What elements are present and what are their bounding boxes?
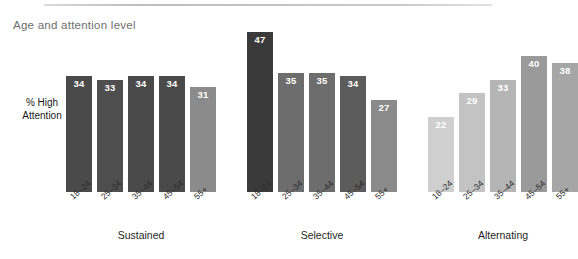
bar-alternating-45_54[interactable]: 40 <box>521 56 547 192</box>
bar-selective-18_24[interactable]: 47 <box>247 32 273 192</box>
bar-selective-55+[interactable]: 27 <box>371 100 397 192</box>
bar-sustained-18_24[interactable]: 34 <box>66 76 92 192</box>
bar-value-label: 34 <box>340 78 366 89</box>
bar-selective-35_44[interactable]: 35 <box>309 73 335 192</box>
bar-selective-45_54[interactable]: 34 <box>340 76 366 192</box>
bar-sustained-45_54[interactable]: 34 <box>159 76 185 192</box>
plot-area: 343334343147353534272229334038 <box>60 22 492 192</box>
x-axis-group-labels: SustainedSelectiveAlternating <box>0 229 496 249</box>
group-label-sustained: Sustained <box>66 229 216 241</box>
bar-value-label: 35 <box>309 75 335 86</box>
x-axis-tick-labels: 18–2425–3435–4445–5455+18–2425–3435–4445… <box>60 194 492 228</box>
bar-alternating-55+[interactable]: 38 <box>552 63 578 192</box>
bar-value-label: 40 <box>521 58 547 69</box>
bar-alternating-25_34[interactable]: 29 <box>459 93 485 192</box>
bar-sustained-35_44[interactable]: 34 <box>128 76 154 192</box>
bar-value-label: 33 <box>97 82 123 93</box>
bar-value-label: 31 <box>190 89 216 100</box>
bar-sustained-25_34[interactable]: 33 <box>97 80 123 192</box>
bar-value-label: 35 <box>278 75 304 86</box>
bar-value-label: 34 <box>159 78 185 89</box>
group-label-selective: Selective <box>247 229 397 241</box>
bar-sustained-55+[interactable]: 31 <box>190 87 216 192</box>
bar-value-label: 29 <box>459 95 485 106</box>
group-label-alternating: Alternating <box>428 229 578 241</box>
bar-alternating-35_44[interactable]: 33 <box>490 80 516 192</box>
bar-selective-25_34[interactable]: 35 <box>278 73 304 192</box>
bar-value-label: 27 <box>371 102 397 113</box>
bar-value-label: 34 <box>128 78 154 89</box>
bar-value-label: 38 <box>552 65 578 76</box>
bar-value-label: 34 <box>66 78 92 89</box>
bar-value-label: 33 <box>490 82 516 93</box>
bar-value-label: 22 <box>428 119 454 130</box>
bar-value-label: 47 <box>247 34 273 45</box>
top-divider-rule <box>44 4 492 6</box>
